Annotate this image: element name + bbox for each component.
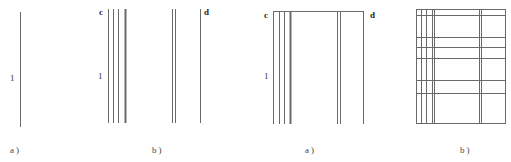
point-label: 1 (10, 74, 15, 83)
point-label: 1 (98, 72, 103, 81)
panel-caption: b) (460, 146, 472, 155)
point-label: c (99, 8, 103, 17)
panel-caption: a) (10, 146, 21, 155)
point-label: d (204, 8, 209, 17)
panel-caption: a) (305, 146, 316, 155)
panel-left-b (109, 9, 201, 123)
point-label: d (370, 11, 375, 20)
panel-caption: b) (152, 146, 164, 155)
point-label: 1 (264, 72, 269, 81)
point-label: c (264, 11, 268, 20)
panel-right-b (416, 9, 506, 124)
diagram-canvas (0, 0, 511, 162)
panel-right-a (273, 11, 364, 124)
